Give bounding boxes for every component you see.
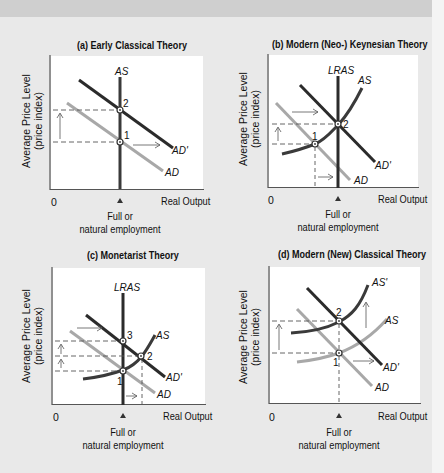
full-employment-marker-icon	[335, 196, 341, 201]
full-employment-marker-icon	[336, 413, 342, 418]
curve-label-as: AS	[155, 330, 170, 341]
curve-label-ad-prime: AD'	[171, 145, 189, 156]
curve-label-lras: LRAS	[114, 282, 140, 293]
curve-label-as-prime: AS'	[371, 277, 388, 288]
point-label-2: 2	[123, 98, 129, 109]
panel-d-full-employment-label: Full or natural employment	[286, 426, 392, 452]
panel-a-full-employment-label: Full or natural employment	[67, 210, 173, 236]
panel-a: (a) Early Classical Theory Average Price…	[0, 0, 220, 240]
curve-label-ad-prime: AD'	[165, 372, 183, 383]
curve-label-as: AS	[114, 66, 129, 77]
curve-label-lras: LRAS	[328, 65, 354, 76]
point-label-1: 1	[312, 131, 318, 142]
curve-label-as: AS	[384, 315, 399, 326]
point-label-2: 2	[343, 119, 349, 130]
panel-d: (d) Modern (New) Classical Theory Averag…	[220, 240, 444, 473]
curve-label-ad-prime: AD'	[382, 362, 400, 373]
curve-label-ad: AD	[374, 382, 389, 393]
curve-label-ad-prime: AD'	[374, 160, 392, 171]
point-label-1: 1	[117, 376, 123, 387]
curve-label-ad: AD	[164, 167, 179, 178]
curve-label-ad: AD	[353, 175, 368, 186]
panel-c-origin-label: 0	[53, 411, 59, 423]
point-label-3: 3	[127, 330, 133, 341]
curve-label-ad: AD	[156, 389, 171, 400]
panel-b-origin-label: 0	[268, 194, 274, 206]
curve-label-as: AS	[357, 75, 372, 86]
panel-c: (c) Monetarist Theory Average Price Leve…	[0, 240, 220, 473]
point-label-1: 1	[124, 130, 130, 141]
panel-d-x-axis-label: Real Output	[378, 410, 427, 422]
full-employment-marker-icon	[117, 198, 123, 203]
panel-c-x-axis-label: Real Output	[163, 410, 212, 422]
point-label-2: 2	[147, 351, 153, 362]
panel-a-x-axis-label: Real Output	[161, 195, 210, 207]
full-employment-marker-icon	[120, 413, 126, 418]
panel-b-x-axis-label: Real Output	[378, 193, 427, 205]
panel-d-origin-label: 0	[269, 411, 275, 423]
panel-b: (b) Modern (Neo-) Keynesian Theory Avera…	[220, 0, 444, 240]
point-label-1: 1	[333, 357, 339, 368]
point-label-2: 2	[336, 307, 342, 318]
panel-c-full-employment-label: Full or natural employment	[70, 426, 176, 452]
panel-a-origin-label: 0	[51, 196, 57, 208]
panel-b-full-employment-label: Full or natural employment	[285, 208, 391, 234]
